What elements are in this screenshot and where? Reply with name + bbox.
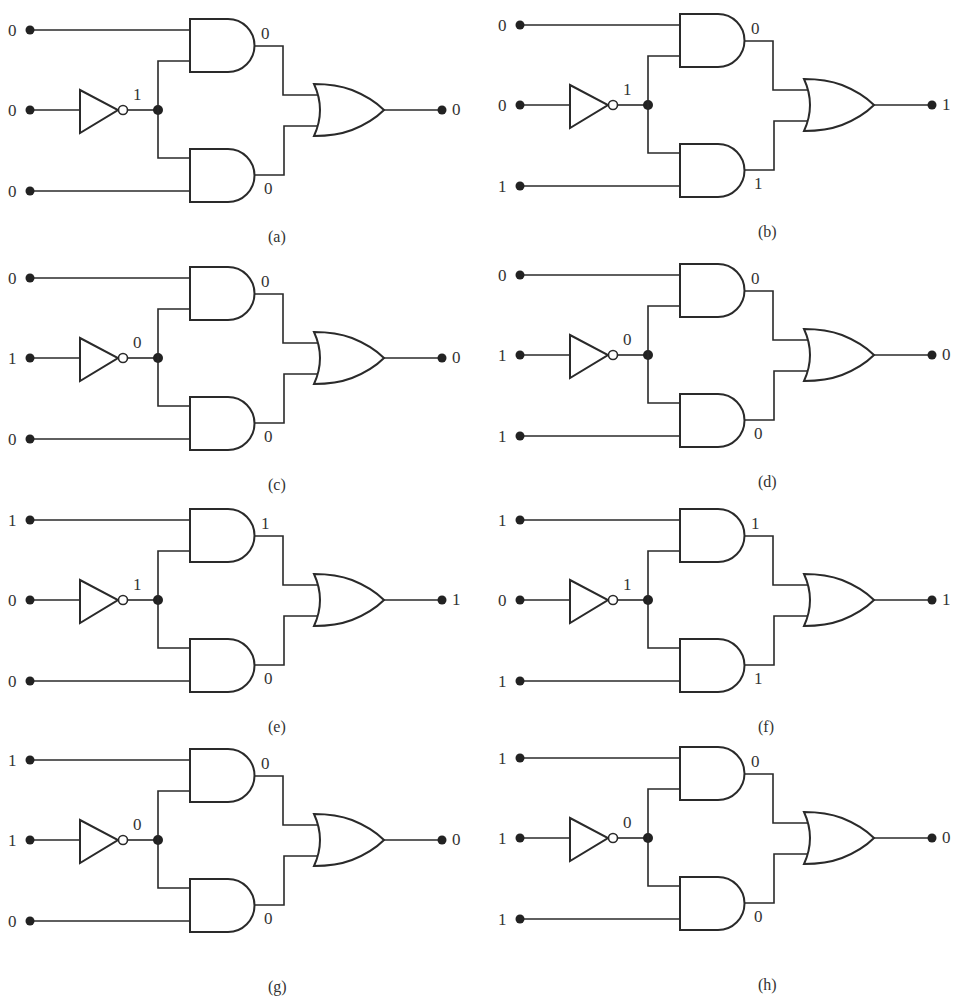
not-gate-icon: [570, 580, 608, 623]
input-b-value: 1: [8, 350, 17, 367]
not-gate-icon: [570, 335, 608, 378]
input-b-terminal: [26, 106, 35, 115]
not-bubble-icon: [119, 106, 128, 115]
output-terminal: [438, 596, 447, 605]
and-gate-top-icon: [190, 509, 255, 562]
input-c-value: 1: [498, 673, 507, 690]
or-gate-icon: [804, 329, 874, 381]
logic-circuit-diagram: [0, 490, 480, 735]
input-a-value: 1: [8, 752, 17, 769]
logic-circuit-diagram: [0, 248, 480, 493]
not-gate-icon: [80, 90, 118, 133]
and-gate-bottom-icon: [190, 639, 255, 692]
or-gate-icon: [804, 79, 874, 131]
not-gate-icon: [80, 338, 118, 381]
input-c-value: 0: [8, 673, 17, 690]
or-gate-icon: [314, 814, 384, 866]
circuit-panel-e: 1 0 0 1 1 0 1 (e): [0, 490, 480, 735]
not-bubble-icon: [609, 351, 618, 360]
input-c-terminal: [516, 915, 525, 924]
and-gate-top-icon: [190, 19, 255, 72]
circuit-panel-g: 1 1 0 0 0 0 0 (g): [0, 730, 480, 975]
and-bottom-output-value: 0: [264, 670, 273, 687]
input-a-value: 0: [498, 267, 507, 284]
and-gate-bottom-icon: [190, 397, 255, 450]
and-gate-top-icon: [680, 264, 745, 317]
circuit-output-value: 1: [452, 591, 461, 608]
input-a-value: 1: [8, 512, 17, 529]
circuit-output-value: 0: [942, 829, 951, 846]
and-top-output-value: 1: [261, 515, 270, 532]
and-top-output-value: 0: [751, 753, 760, 770]
and-bottom-output-value: 0: [264, 910, 273, 927]
not-bubble-icon: [609, 596, 618, 605]
and-gate-bottom-icon: [190, 879, 255, 932]
input-a-terminal: [26, 274, 35, 283]
circuit-output-value: 0: [452, 101, 461, 118]
input-b-value: 0: [498, 97, 507, 114]
or-gate-icon: [314, 332, 384, 384]
not-gate-icon: [570, 85, 608, 128]
output-terminal: [438, 354, 447, 363]
circuit-panel-f: 1 0 1 1 1 1 1 (f): [490, 490, 967, 735]
input-b-value: 1: [498, 830, 507, 847]
input-b-terminal: [516, 101, 525, 110]
output-terminal: [928, 596, 937, 605]
input-c-terminal: [26, 677, 35, 686]
logic-circuit-diagram: [490, 728, 967, 973]
not-gate-icon: [570, 818, 608, 861]
circuit-panel-b: 0 0 1 1 0 1 1 (b): [490, 0, 967, 240]
input-b-terminal: [26, 836, 35, 845]
not-output-value: 1: [623, 576, 632, 593]
panel-caption: (d): [758, 473, 777, 491]
logic-circuit-diagram: [490, 490, 967, 735]
input-c-terminal: [26, 187, 35, 196]
input-c-terminal: [516, 182, 525, 191]
input-a-terminal: [26, 516, 35, 525]
input-c-terminal: [516, 432, 525, 441]
not-output-value: 1: [133, 576, 142, 593]
input-b-value: 0: [8, 102, 17, 119]
input-b-terminal: [516, 834, 525, 843]
and-gate-top-icon: [190, 267, 255, 320]
logic-circuit-diagram: [490, 245, 967, 490]
and-bottom-output-value: 1: [754, 175, 763, 192]
input-a-terminal: [516, 754, 525, 763]
input-b-value: 0: [8, 592, 17, 609]
and-gate-top-icon: [190, 749, 255, 802]
logic-circuit-diagram: [490, 0, 967, 240]
circuit-panel-c: 0 1 0 0 0 0 0 (c): [0, 248, 480, 493]
panel-caption: (h): [758, 976, 777, 994]
input-b-terminal: [26, 596, 35, 605]
not-bubble-icon: [119, 354, 128, 363]
circuit-panel-d: 0 1 1 0 0 0 0 (d): [490, 245, 967, 490]
not-bubble-icon: [119, 836, 128, 845]
input-a-value: 0: [8, 22, 17, 39]
output-terminal: [928, 101, 937, 110]
circuit-output-value: 0: [452, 831, 461, 848]
input-a-terminal: [516, 516, 525, 525]
and-top-output-value: 1: [751, 515, 760, 532]
and-gate-bottom-icon: [680, 639, 745, 692]
input-a-value: 0: [8, 270, 17, 287]
circuit-output-value: 1: [942, 591, 951, 608]
not-output-value: 0: [623, 814, 632, 831]
circuit-panel-h: 1 1 1 0 0 0 0 (h): [490, 728, 967, 973]
input-c-value: 0: [8, 913, 17, 930]
circuit-panel-a: 0 0 0 1 0 0 0 (a): [0, 0, 480, 245]
not-bubble-icon: [609, 834, 618, 843]
circuit-output-value: 1: [942, 96, 951, 113]
and-gate-top-icon: [680, 509, 745, 562]
not-output-value: 0: [133, 334, 142, 351]
and-bottom-output-value: 0: [754, 908, 763, 925]
output-terminal: [928, 834, 937, 843]
input-b-value: 1: [8, 832, 17, 849]
not-bubble-icon: [609, 101, 618, 110]
panel-caption: (b): [758, 223, 777, 241]
input-c-value: 1: [498, 178, 507, 195]
or-gate-icon: [804, 574, 874, 626]
input-a-value: 0: [498, 17, 507, 34]
and-top-output-value: 0: [751, 270, 760, 287]
panel-caption: (a): [268, 228, 286, 246]
and-top-output-value: 0: [261, 273, 270, 290]
